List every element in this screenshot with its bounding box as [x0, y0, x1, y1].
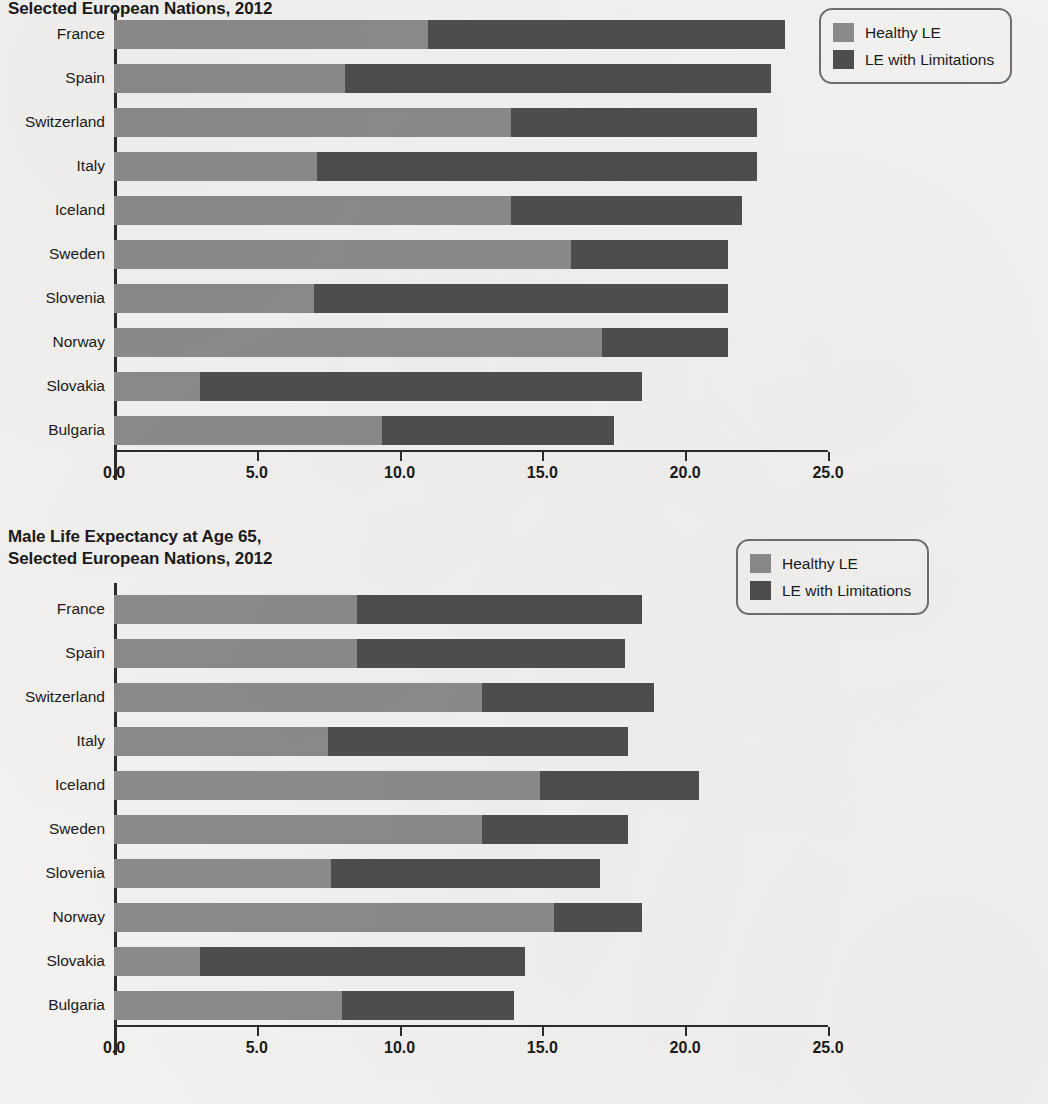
female-legend: Healthy LE LE with Limitations: [819, 8, 1012, 84]
bar-row: Norway: [0, 897, 1048, 937]
bar-segment-le-with-limitations: [382, 416, 613, 445]
stacked-bar: [114, 991, 514, 1020]
male-legend: Healthy LE LE with Limitations: [736, 539, 929, 615]
bar-segment-le-with-limitations: [540, 771, 700, 800]
stacked-bar: [114, 284, 728, 313]
category-label: Iceland: [0, 190, 105, 230]
bar-segment-le-with-limitations: [345, 64, 771, 93]
stacked-bar: [114, 947, 525, 976]
bar-row: Slovakia: [0, 941, 1048, 981]
stacked-bar: [114, 372, 642, 401]
axis-tick-label: 25.0: [812, 464, 843, 482]
legend-swatch-limited-icon: [833, 50, 854, 69]
bar-segment-le-with-limitations: [511, 108, 757, 137]
category-label: Italy: [0, 146, 105, 186]
stacked-bar: [114, 328, 728, 357]
legend-swatch-healthy-icon: [750, 554, 771, 573]
bar-segment-healthy-le: [114, 64, 345, 93]
stacked-bar: [114, 152, 757, 181]
bar-segment-healthy-le: [114, 727, 328, 756]
bar-segment-healthy-le: [114, 595, 357, 624]
axis-tick-mark: [400, 1027, 402, 1036]
axis-tick-label: 20.0: [670, 1039, 701, 1057]
category-label: Norway: [0, 322, 105, 362]
bar-row: Sweden: [0, 234, 1048, 274]
stacked-bar: [114, 108, 757, 137]
axis-tick-label: 20.0: [670, 464, 701, 482]
stacked-bar: [114, 727, 628, 756]
male-plot-area: FranceSpainSwitzerlandItalyIcelandSweden…: [0, 583, 1048, 1055]
stacked-bar: [114, 639, 625, 668]
bar-segment-healthy-le: [114, 683, 482, 712]
bar-segment-healthy-le: [114, 859, 331, 888]
category-label: Bulgaria: [0, 410, 105, 450]
stacked-bar: [114, 859, 600, 888]
bar-segment-le-with-limitations: [317, 152, 757, 181]
bar-row: Slovenia: [0, 853, 1048, 893]
axis-tick-mark: [685, 1027, 687, 1036]
axis-tick-label: 10.0: [384, 464, 415, 482]
stacked-bar: [114, 903, 642, 932]
bar-segment-healthy-le: [114, 771, 540, 800]
legend-row-limited: LE with Limitations: [750, 577, 911, 604]
bar-segment-healthy-le: [114, 416, 382, 445]
bar-segment-le-with-limitations: [357, 639, 625, 668]
bar-segment-healthy-le: [114, 947, 200, 976]
bar-row: Switzerland: [0, 677, 1048, 717]
stacked-bar: [114, 64, 771, 93]
bar-row: Bulgaria: [0, 410, 1048, 450]
bar-segment-healthy-le: [114, 240, 571, 269]
axis-tick-label: 25.0: [812, 1039, 843, 1057]
bar-segment-le-with-limitations: [331, 859, 599, 888]
bar-row: Switzerland: [0, 102, 1048, 142]
stacked-bar: [114, 20, 785, 49]
bar-row: Italy: [0, 146, 1048, 186]
axis-tick-mark: [542, 452, 544, 461]
male-chart-panel: Male Life Expectancy at Age 65, Selected…: [0, 525, 1048, 1104]
legend-swatch-healthy-icon: [833, 23, 854, 42]
axis-tick-label: 0.0: [103, 464, 125, 482]
female-chart-panel: Female Life Expectancy at Age 65, Select…: [0, 0, 1048, 525]
axis-tick-label: 15.0: [527, 464, 558, 482]
bar-segment-le-with-limitations: [482, 815, 628, 844]
axis-tick-label: 0.0: [103, 1039, 125, 1057]
stacked-bar: [114, 683, 654, 712]
category-label: Sweden: [0, 809, 105, 849]
axis-tick-mark: [685, 452, 687, 461]
category-label: Spain: [0, 58, 105, 98]
axis-tick-label: 15.0: [527, 1039, 558, 1057]
axis-tick-mark: [400, 452, 402, 461]
bar-row: Spain: [0, 633, 1048, 673]
legend-label-limited: LE with Limitations: [865, 51, 994, 69]
axis-tick-mark: [542, 1027, 544, 1036]
bar-segment-healthy-le: [114, 639, 357, 668]
male-chart-title-wrap: Male Life Expectancy at Age 65, Selected…: [8, 526, 272, 570]
stacked-bar: [114, 240, 728, 269]
bar-segment-healthy-le: [114, 372, 200, 401]
bar-segment-healthy-le: [114, 991, 342, 1020]
bar-segment-le-with-limitations: [571, 240, 728, 269]
category-label: Iceland: [0, 765, 105, 805]
stacked-bar: [114, 815, 628, 844]
bar-row: Norway: [0, 322, 1048, 362]
legend-label-healthy: Healthy LE: [865, 24, 941, 42]
category-label: France: [0, 14, 105, 54]
bar-row: Bulgaria: [0, 985, 1048, 1025]
legend-label-healthy: Healthy LE: [782, 555, 858, 573]
category-label: Switzerland: [0, 677, 105, 717]
axis-tick-label: 5.0: [246, 1039, 268, 1057]
axis-tick-label: 5.0: [246, 464, 268, 482]
bar-segment-healthy-le: [114, 196, 511, 225]
bar-segment-healthy-le: [114, 152, 317, 181]
axis-tick-mark: [257, 452, 259, 461]
stacked-bar: [114, 416, 614, 445]
female-x-ticks: 0.05.010.015.020.025.0: [0, 452, 1048, 486]
axis-tick-mark: [257, 1027, 259, 1036]
bar-segment-healthy-le: [114, 328, 602, 357]
legend-swatch-limited-icon: [750, 581, 771, 600]
category-label: Slovakia: [0, 366, 105, 406]
bar-row: Iceland: [0, 765, 1048, 805]
bar-row: Sweden: [0, 809, 1048, 849]
bar-segment-le-with-limitations: [428, 20, 785, 49]
legend-row-limited: LE with Limitations: [833, 46, 994, 73]
